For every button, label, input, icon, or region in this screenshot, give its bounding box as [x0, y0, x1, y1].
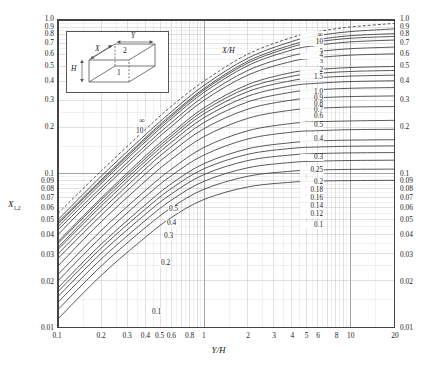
y-tick-left-0.06: 0.06 — [22, 204, 54, 211]
curve-0.2 — [58, 140, 394, 288]
curve-0.4 — [58, 107, 394, 266]
ladder-item-0.6: 0.6 — [300, 113, 324, 120]
ladder-item-0.18: 0.18 — [300, 187, 324, 194]
curve-0.5 — [58, 96, 394, 258]
y-tick-left-0.03: 0.03 — [22, 251, 54, 258]
y-tick-right-0.08: 0.08 — [400, 185, 434, 192]
curve-label-0.3: 0.3 — [163, 232, 174, 239]
x-axis-title: Y/H — [0, 345, 437, 355]
curve-0.3 — [58, 120, 394, 274]
inset-face-2: 2 — [123, 46, 127, 55]
x-tick-20: 20 — [383, 332, 407, 339]
y-tick-right-0.03: 0.03 — [400, 251, 434, 258]
ladder-item-0.25: 0.25 — [300, 167, 324, 174]
curve-0.6 — [58, 88, 394, 254]
ladder-item-0.1: 0.1 — [300, 222, 324, 229]
y-tick-right-0.04: 0.04 — [400, 231, 434, 238]
y-tick-right-0.02: 0.02 — [400, 278, 434, 285]
y-axis-title-sub: 1,2 — [14, 205, 21, 211]
ladder-item-10: 10 — [300, 39, 324, 46]
curve-label-0.2: 0.2 — [160, 259, 171, 266]
y-tick-left-0.8: 0.8 — [22, 30, 54, 37]
y-tick-right-0.6: 0.6 — [400, 50, 434, 57]
y-tick-right-0.2: 0.2 — [400, 123, 434, 130]
y-tick-right-0.01: 0.01 — [400, 324, 434, 331]
y-axis-title: X1,2 — [8, 199, 21, 211]
y-tick-right-0.07: 0.07 — [400, 194, 434, 201]
y-tick-left-0.5: 0.5 — [22, 62, 54, 69]
y-tick-right-0.06: 0.06 — [400, 204, 434, 211]
curve-0.8 — [58, 75, 394, 247]
ladder-item-1.5: 1.5 — [300, 74, 324, 81]
y-tick-right-0.3: 0.3 — [400, 96, 434, 103]
inset-box-svg — [67, 32, 168, 92]
y-tick-left-0.04: 0.04 — [22, 231, 54, 238]
curve-label-0.1: 0.1 — [151, 308, 162, 315]
x-tick-2: 2 — [236, 332, 260, 339]
y-tick-left-0.01: 0.01 — [22, 324, 54, 331]
y-tick-right-0.05: 0.05 — [400, 216, 434, 223]
ladder-item-0.3: 0.3 — [300, 154, 324, 161]
y-tick-left-0.6: 0.6 — [22, 50, 54, 57]
ladder-item-0.5: 0.5 — [300, 122, 324, 129]
inset-face-1: 1 — [117, 68, 121, 77]
ladder-item-0.14: 0.14 — [300, 203, 324, 210]
ladder-item-0.2: 0.2 — [300, 179, 324, 186]
y-tick-left-0.7: 0.7 — [22, 39, 54, 46]
y-tick-right-0.7: 0.7 — [400, 39, 434, 46]
ladder-item-0.4: 0.4 — [300, 136, 324, 143]
parameter-name-annotation: X/H — [221, 46, 236, 55]
curve-label-0.5: 0.5 — [168, 205, 179, 212]
y-tick-left-0.08: 0.08 — [22, 185, 54, 192]
curve-0.1 — [58, 180, 394, 319]
y-tick-right-0.8: 0.8 — [400, 30, 434, 37]
curve-label-0.4: 0.4 — [166, 219, 177, 226]
x-tick-10: 10 — [339, 332, 363, 339]
curve-0.25 — [58, 129, 394, 280]
y-tick-left-0.2: 0.2 — [22, 123, 54, 130]
y-tick-left-0.02: 0.02 — [22, 278, 54, 285]
inset-label-y: Y — [131, 31, 135, 40]
curve-label-10: 10 — [135, 127, 144, 134]
curve-0.18 — [58, 146, 394, 292]
ladder-item-0.16: 0.16 — [300, 195, 324, 202]
x-tick-0.1: 0.1 — [45, 332, 69, 339]
inset-label-h: H — [71, 64, 76, 73]
y-tick-left-0.4: 0.4 — [22, 77, 54, 84]
x-tick-0.2: 0.2 — [89, 332, 113, 339]
curve-0.12 — [58, 169, 394, 309]
y-tick-left-0.05: 0.05 — [22, 216, 54, 223]
ladder-item-3: 3 — [308, 58, 324, 64]
chart-figure: 1.00.90.80.70.60.50.40.30.20.10.090.080.… — [0, 0, 437, 372]
ladder-item-0.12: 0.12 — [300, 211, 324, 218]
y-tick-left-0.3: 0.3 — [22, 96, 54, 103]
inset-label-x: X — [95, 44, 100, 53]
inset-geometry-diagram: H X Y 1 2 — [66, 31, 169, 93]
curve-label-∞: ∞ — [138, 117, 146, 125]
y-tick-left-0.07: 0.07 — [22, 194, 54, 201]
x-tick-1: 1 — [192, 332, 216, 339]
y-tick-right-0.5: 0.5 — [400, 62, 434, 69]
y-tick-right-0.4: 0.4 — [400, 77, 434, 84]
